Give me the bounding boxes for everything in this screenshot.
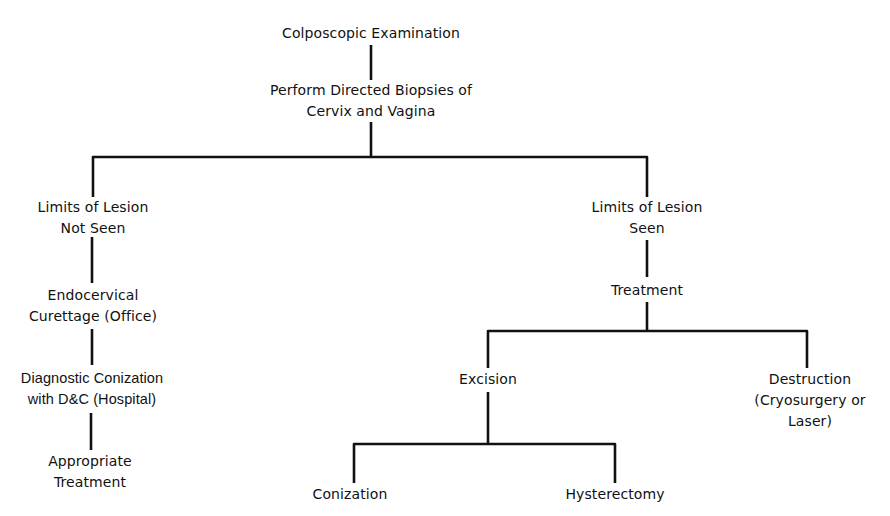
- node-label: Seen: [592, 218, 703, 239]
- node-perform-directed-biopsies: Perform Directed Biopsies of Cervix and …: [270, 80, 472, 122]
- connector-biopsies-branch-bar: [93, 157, 647, 197]
- node-label: Endocervical: [29, 285, 157, 306]
- node-label: Cervix and Vagina: [270, 101, 472, 122]
- node-appropriate-treatment: Appropriate Treatment: [48, 451, 132, 493]
- node-label: with D&C (Hospital): [21, 389, 163, 410]
- node-label: Hysterectomy: [565, 484, 664, 505]
- node-treatment: Treatment: [611, 280, 683, 301]
- node-label: Treatment: [48, 472, 132, 493]
- connector-excision-branch-bar: [354, 444, 615, 483]
- node-label: Laser): [754, 411, 865, 432]
- node-label: Excision: [459, 369, 517, 390]
- node-excision: Excision: [459, 369, 517, 390]
- node-label: (Cryosurgery or: [754, 390, 865, 411]
- node-label: Appropriate: [48, 451, 132, 472]
- node-limits-seen: Limits of Lesion Seen: [592, 197, 703, 239]
- node-label: Colposcopic Examination: [282, 23, 460, 44]
- node-diagnostic-conization: Diagnostic Conization with D&C (Hospital…: [21, 368, 163, 410]
- node-label: Not Seen: [38, 218, 149, 239]
- connector-treatment-branch-bar: [488, 331, 807, 368]
- node-label: Destruction: [754, 369, 865, 390]
- node-label: Conization: [313, 484, 388, 505]
- node-limits-not-seen: Limits of Lesion Not Seen: [38, 197, 149, 239]
- node-label: Limits of Lesion: [38, 197, 149, 218]
- node-conization: Conization: [313, 484, 388, 505]
- node-label: Limits of Lesion: [592, 197, 703, 218]
- node-label: Diagnostic Conization: [21, 368, 163, 389]
- node-endocervical-curettage: Endocervical Curettage (Office): [29, 285, 157, 327]
- node-label: Curettage (Office): [29, 306, 157, 327]
- node-colposcopic-examination: Colposcopic Examination: [282, 23, 460, 44]
- flowchart-connectors: [0, 0, 890, 516]
- node-destruction: Destruction (Cryosurgery or Laser): [754, 369, 865, 432]
- node-label: Perform Directed Biopsies of: [270, 80, 472, 101]
- node-label: Treatment: [611, 280, 683, 301]
- node-hysterectomy: Hysterectomy: [565, 484, 664, 505]
